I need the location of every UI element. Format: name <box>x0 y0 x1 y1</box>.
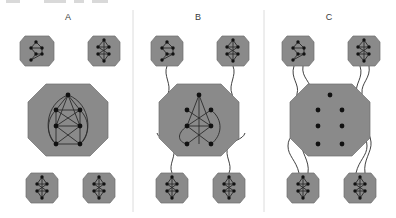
panel-c-label: C <box>326 12 333 22</box>
cropped-caption-fragment-2 <box>44 0 66 3</box>
cropped-caption-fragment-3 <box>74 0 84 3</box>
central-module-c <box>290 84 370 156</box>
module-c-top-right <box>348 36 380 66</box>
module-b-bottom-left <box>156 173 188 203</box>
module-c-top-left <box>282 36 314 66</box>
module-c-bottom-right <box>344 173 376 203</box>
three-panel-network-modularity-figure: A <box>0 0 396 218</box>
central-module-a <box>28 84 108 156</box>
panel-a-label: A <box>65 12 71 22</box>
module-b-bottom-right <box>213 173 245 203</box>
module-b-top-right <box>217 36 249 66</box>
module-a-top-left <box>20 36 54 66</box>
central-module-b <box>159 84 239 156</box>
module-b-top-left <box>151 36 183 66</box>
cropped-caption-fragment-1 <box>6 0 20 3</box>
module-a-top-right <box>88 36 120 66</box>
panel-b-label: B <box>195 12 201 22</box>
module-a-bottom-right <box>83 173 115 203</box>
module-outline <box>20 36 54 66</box>
module-a-bottom-left <box>26 173 58 203</box>
cropped-caption-fragment-4 <box>92 0 108 3</box>
module-c-bottom-left <box>287 173 319 203</box>
